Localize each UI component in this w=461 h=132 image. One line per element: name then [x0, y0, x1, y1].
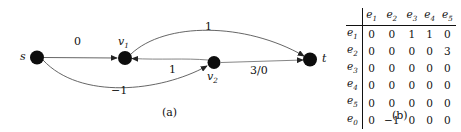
- matrix-cell: 1: [421, 26, 439, 44]
- matrix-cell: 0: [421, 43, 439, 60]
- matrix-col-head-e2: e2: [381, 8, 403, 26]
- node-s[interactable]: [30, 51, 44, 65]
- figure-container: s v1 v2 t 0 1 1 −1 3/0 (a) e1: [0, 0, 461, 132]
- edge-label-s-v2: −1: [111, 85, 127, 96]
- panel-b-matrix: e1 e2 e3 e4 e5: [340, 0, 461, 132]
- matrix-cell: 0: [362, 77, 380, 94]
- matrix-cell: 0: [403, 43, 421, 60]
- matrix-row-head-e1: e1: [346, 26, 362, 44]
- edge-s-v1: [44, 58, 117, 59]
- matrix-cell: 0: [362, 60, 380, 77]
- matrix-cell: 0: [439, 77, 457, 94]
- matrix-cell: 0: [362, 26, 380, 44]
- matrix-row-head-e3: e3: [346, 60, 362, 77]
- matrix-header: e1 e2 e3 e4 e5: [346, 8, 456, 26]
- matrix-row-head-e4: e4: [346, 77, 362, 94]
- matrix-cell: 0: [362, 94, 380, 111]
- matrix-row: e2 0 0 0 0 3: [346, 43, 456, 60]
- matrix-cell: 0: [421, 60, 439, 77]
- matrix-cell: 0: [403, 77, 421, 94]
- node-label-s: s: [20, 51, 26, 62]
- matrix-cell: 0: [362, 43, 380, 60]
- node-label-v1: v1: [118, 36, 129, 49]
- matrix-cell: 0: [381, 26, 403, 44]
- node-label-t: t: [322, 53, 326, 64]
- edge-label-v2-t: 3/0: [250, 65, 268, 76]
- matrix-cell: 0: [421, 77, 439, 94]
- edge-label-v1-t: 1: [205, 21, 212, 32]
- matrix-cell: 3: [439, 43, 457, 60]
- edge-label-v2-v1: 1: [169, 64, 176, 75]
- edge-v2-t: [221, 60, 303, 63]
- matrix-row: e1 0 0 1 1 0: [346, 26, 456, 44]
- matrix-cell: 0: [421, 112, 439, 129]
- edge-v2-v1: [132, 59, 208, 61]
- matrix-header-row: e1 e2 e3 e4 e5: [346, 8, 456, 26]
- matrix-row-head-e2: e2: [346, 43, 362, 60]
- node-t[interactable]: [303, 53, 317, 67]
- caption-a: (a): [162, 107, 177, 118]
- matrix-col-head-e1: e1: [362, 8, 380, 26]
- matrix-cell: 0: [381, 77, 403, 94]
- edge-label-s-v1: 0: [74, 36, 81, 47]
- matrix-row: e4 0 0 0 0 0: [346, 77, 456, 94]
- matrix-col-head-e5: e5: [439, 8, 457, 26]
- matrix-cell: 0: [362, 112, 380, 129]
- matrix-cell: 0: [439, 94, 457, 111]
- matrix-cell: 0: [439, 60, 457, 77]
- matrix-cell: 0: [381, 60, 403, 77]
- panel-a-graph: s v1 v2 t 0 1 1 −1 3/0 (a): [0, 0, 340, 132]
- node-v1[interactable]: [118, 51, 132, 65]
- matrix-row-head-e0: e0: [346, 112, 362, 129]
- matrix-col-head-e4: e4: [421, 8, 439, 26]
- node-v2[interactable]: [208, 56, 221, 69]
- caption-b: (b): [392, 110, 408, 121]
- matrix-row: e3 0 0 0 0 0: [346, 60, 456, 77]
- matrix-col-head-e3: e3: [403, 8, 421, 26]
- matrix-cell: 0: [381, 43, 403, 60]
- matrix-cell: 0: [439, 26, 457, 44]
- matrix-cell: 0: [403, 60, 421, 77]
- matrix-corner-cell: [346, 8, 362, 26]
- matrix-cell: 0: [421, 94, 439, 111]
- edge-v1-t: [131, 30, 304, 56]
- matrix-cell: 0: [439, 112, 457, 129]
- node-label-v2: v2: [207, 71, 218, 84]
- matrix-row-head-e5: e5: [346, 94, 362, 111]
- matrix-cell: 1: [403, 26, 421, 44]
